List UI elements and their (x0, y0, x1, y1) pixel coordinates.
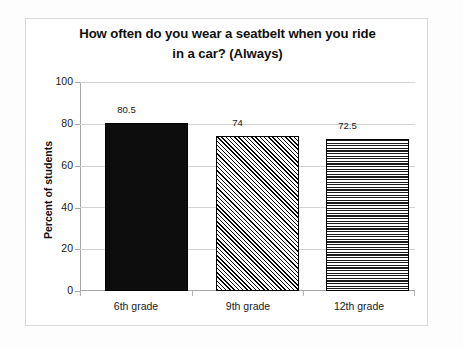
bar-value-label-12th-grade: 72.5 (306, 120, 389, 131)
bar-6th-grade[interactable] (105, 123, 188, 291)
y-axis-title: Percent of students (42, 120, 54, 260)
chart-title: How often do you wear a seatbelt when yo… (40, 24, 415, 64)
y-tick-label-100: 100 (33, 75, 73, 87)
x-tick-mark-0 (80, 291, 81, 296)
x-category-label-9th-grade: 9th grade (192, 300, 304, 312)
x-tick-mark-3 (414, 291, 415, 296)
y-tick-label-0: 0 (33, 284, 73, 296)
bar-value-label-6th-grade: 80.5 (85, 104, 168, 115)
y-tick-label-40: 40 (33, 201, 73, 213)
y-tick-label-60: 60 (33, 159, 73, 171)
y-tick-label-20: 20 (33, 242, 73, 254)
y-tick-label-80: 80 (33, 117, 73, 129)
x-category-label-6th-grade: 6th grade (80, 300, 192, 312)
chart-figure: How often do you wear a seatbelt when yo… (0, 0, 463, 347)
gridline-100 (80, 82, 415, 83)
bar-9th-grade[interactable] (216, 136, 299, 291)
bar-value-label-9th-grade: 74 (196, 117, 279, 128)
x-tick-mark-2 (303, 291, 304, 296)
bar-12th-grade[interactable] (326, 139, 409, 291)
chart-title-line-1: How often do you wear a seatbelt when yo… (40, 24, 415, 44)
chart-title-line-2: in a car? (Always) (40, 44, 415, 64)
x-tick-mark-1 (192, 291, 193, 296)
x-category-label-12th-grade: 12th grade (303, 300, 415, 312)
